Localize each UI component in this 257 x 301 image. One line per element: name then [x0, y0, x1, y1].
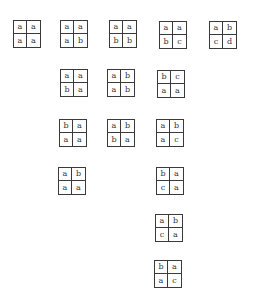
- cell-bottom-left: c: [210, 35, 223, 48]
- cell-bottom-left: c: [156, 228, 169, 241]
- cell-bottom-left: b: [108, 133, 121, 146]
- cell-top-left: a: [14, 21, 27, 34]
- cell-top-right: a: [74, 21, 87, 34]
- tile-aabb: a a b b: [109, 20, 137, 48]
- cell-bottom-left: a: [59, 181, 72, 194]
- cell-top-right: b: [170, 120, 183, 133]
- tile-baac: b a a c: [154, 260, 182, 288]
- cell-top-right: a: [173, 22, 186, 35]
- cell-bottom-right: a: [72, 181, 85, 194]
- cell-bottom-left: c: [157, 181, 170, 194]
- cell-top-left: a: [61, 70, 74, 83]
- cell-top-right: b: [72, 168, 85, 181]
- tile-abca: a b c a: [155, 214, 183, 242]
- cell-top-left: a: [210, 22, 223, 35]
- cell-bottom-right: a: [74, 83, 87, 96]
- tile-abba: a b b a: [107, 119, 135, 147]
- cell-top-left: a: [160, 22, 173, 35]
- cell-top-right: b: [223, 22, 236, 35]
- cell-bottom-left: a: [61, 34, 74, 47]
- cell-top-right: b: [169, 215, 182, 228]
- cell-top-left: a: [61, 21, 74, 34]
- cell-bottom-right: a: [170, 181, 183, 194]
- cell-bottom-right: b: [121, 83, 134, 96]
- cell-top-right: a: [168, 261, 181, 274]
- cell-bottom-right: a: [171, 84, 184, 97]
- cell-top-right: a: [123, 21, 136, 34]
- cell-bottom-left: b: [160, 35, 173, 48]
- cell-top-left: a: [156, 215, 169, 228]
- tile-aaba: a a b a: [60, 69, 88, 97]
- cell-bottom-right: a: [73, 133, 86, 146]
- cell-bottom-right: b: [123, 34, 136, 47]
- cell-top-right: a: [74, 70, 87, 83]
- tile-aaaa: a a a a: [13, 20, 41, 48]
- cell-bottom-right: c: [168, 274, 181, 287]
- cell-bottom-left: a: [157, 133, 170, 146]
- cell-top-right: c: [171, 71, 184, 84]
- cell-top-left: b: [155, 261, 168, 274]
- cell-bottom-left: b: [110, 34, 123, 47]
- cell-bottom-left: a: [155, 274, 168, 287]
- cell-top-right: a: [170, 168, 183, 181]
- tile-aabc: a a b c: [159, 21, 187, 49]
- cell-top-left: a: [59, 168, 72, 181]
- tile-abcd: a b c d: [209, 21, 237, 49]
- cell-bottom-left: a: [60, 133, 73, 146]
- cell-bottom-left: a: [158, 84, 171, 97]
- cell-bottom-right: a: [121, 133, 134, 146]
- cell-top-left: a: [110, 21, 123, 34]
- cell-bottom-right: d: [223, 35, 236, 48]
- cell-top-right: a: [73, 120, 86, 133]
- cell-bottom-left: a: [14, 34, 27, 47]
- cell-bottom-right: c: [173, 35, 186, 48]
- cell-top-left: a: [157, 120, 170, 133]
- tile-aaab: a a a b: [60, 20, 88, 48]
- cell-top-right: b: [121, 120, 134, 133]
- tile-abab: a b a b: [107, 69, 135, 97]
- cell-bottom-left: a: [108, 83, 121, 96]
- tile-baaa: b a a a: [59, 119, 87, 147]
- cell-top-left: a: [108, 120, 121, 133]
- cell-bottom-right: c: [170, 133, 183, 146]
- cell-top-right: a: [27, 21, 40, 34]
- tile-abaa: a b a a: [58, 167, 86, 195]
- tile-baca: b a c a: [156, 167, 184, 195]
- cell-bottom-right: a: [27, 34, 40, 47]
- cell-top-left: b: [158, 71, 171, 84]
- tile-abac: a b a c: [156, 119, 184, 147]
- cell-top-left: b: [60, 120, 73, 133]
- cell-top-left: b: [157, 168, 170, 181]
- cell-top-right: b: [121, 70, 134, 83]
- cell-bottom-right: b: [74, 34, 87, 47]
- cell-top-left: a: [108, 70, 121, 83]
- cell-bottom-left: b: [61, 83, 74, 96]
- cell-bottom-right: a: [169, 228, 182, 241]
- tile-bcaa: b c a a: [157, 70, 185, 98]
